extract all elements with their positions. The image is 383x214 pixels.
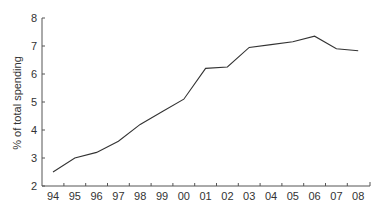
x-tick-label: 94: [47, 190, 59, 202]
y-tick-label: 8: [31, 12, 37, 24]
x-tick-label: 96: [90, 190, 102, 202]
y-tick-label: 4: [31, 124, 37, 136]
x-tick-label: 97: [112, 190, 124, 202]
x-tick-label: 02: [221, 190, 233, 202]
y-tick-label: 3: [31, 152, 37, 164]
y-axis-title: % of total spending: [11, 56, 23, 150]
x-tick-label: 06: [308, 190, 320, 202]
y-tick-label: 2: [31, 180, 37, 192]
x-tick-label: 03: [243, 190, 255, 202]
line-chart: 2345678 949596979899000102030405060708 %…: [0, 0, 383, 214]
y-tick-label: 5: [31, 96, 37, 108]
x-tick-label: 07: [330, 190, 342, 202]
y-tick-label: 6: [31, 68, 37, 80]
x-tick-label: 05: [287, 190, 299, 202]
x-tick-label: 01: [199, 190, 211, 202]
x-tick-label: 99: [156, 190, 168, 202]
x-tick-label: 95: [69, 190, 81, 202]
y-tick-label: 7: [31, 40, 37, 52]
x-tick-label: 00: [178, 190, 190, 202]
chart-canvas: 2345678 949596979899000102030405060708 %…: [0, 0, 383, 214]
x-tick-label: 08: [352, 190, 364, 202]
x-axis: 949596979899000102030405060708: [42, 182, 370, 202]
x-tick-label: 98: [134, 190, 146, 202]
y-axis: 2345678: [31, 12, 45, 192]
x-tick-label: 04: [265, 190, 277, 202]
series-line: [53, 36, 358, 172]
